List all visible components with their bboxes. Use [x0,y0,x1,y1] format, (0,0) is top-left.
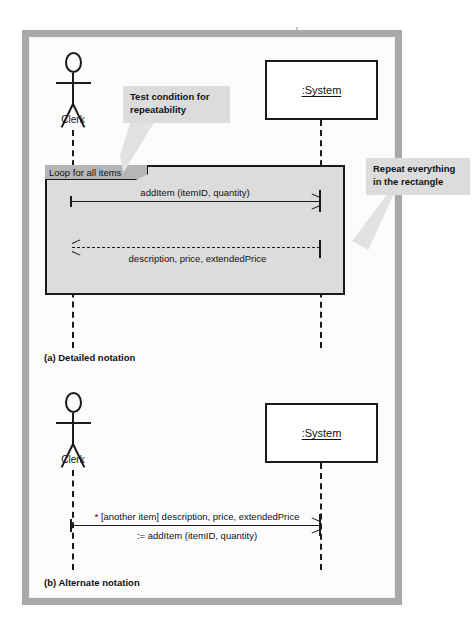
message-arrowhead-description-return [72,243,81,252]
object-label-system: :System [302,84,342,96]
callout-repeat-everything: Repeat everything in the rectangle [366,158,470,195]
object-label-system: :System [302,427,342,439]
caption-panel-a: (a) Detailed notation [44,352,135,363]
callout-test-condition-line1: Test condition for [130,91,223,104]
object-box-system-a: :System [265,60,378,120]
actor-body-icon [72,413,74,446]
loop-frame-a [45,165,345,295]
actor-head-icon [65,52,82,73]
actor-label-clerk: Clerk [47,454,99,465]
message-arrowhead-add-item [311,197,318,206]
callout-test-condition: Test condition for repeatability [123,86,230,123]
actor-body-icon [72,73,74,106]
actor-label-clerk: Clerk [47,114,99,125]
message-line-another-item [72,525,320,526]
message-label-description-return: description, price, extendedPrice [85,253,310,264]
message-line-add-item [72,201,320,202]
actor-head-icon [65,392,82,413]
message-label-add-item: addItem (itemID, quantity) [105,187,285,198]
message-arrowhead-another-item [311,521,318,530]
lifeline-clerk-b [72,470,74,570]
message-origin-tick-m2 [319,240,321,258]
message-label-another-item-line2: := addItem (itemID, quantity) [78,530,316,541]
object-box-system-b: :System [265,403,378,463]
callout-repeat-everything-line2: in the rectangle [373,176,463,189]
message-label-another-item-line1: * [another item] description, price, ext… [78,511,316,522]
message-line-description-return [72,247,320,248]
message-target-tick-m3 [319,514,321,536]
callout-repeat-everything-line1: Repeat everything [373,163,463,176]
figure-page: Clerk :System Loop for all items addItem… [0,0,472,633]
caption-panel-b: (b) Alternate notation [44,577,140,588]
loop-frame-tab-label: Loop for all items [45,165,148,180]
message-target-tick-m1 [319,190,321,212]
callout-test-condition-line2: repeatability [130,104,223,117]
